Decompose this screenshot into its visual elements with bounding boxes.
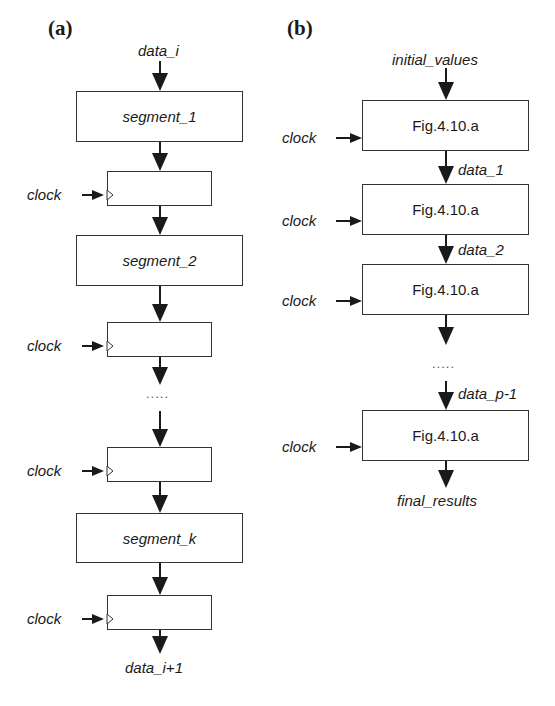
segment-1-block: segment_1 bbox=[76, 91, 243, 142]
clock-label: clock bbox=[27, 462, 61, 479]
segment-k-block: segment_k bbox=[76, 513, 243, 563]
clock-label: clock bbox=[282, 438, 316, 455]
register-1 bbox=[107, 171, 212, 206]
ellipsis: ..... bbox=[146, 386, 169, 401]
fig-block-3: Fig.4.10.a bbox=[362, 264, 529, 315]
output-label-final-results: final_results bbox=[397, 492, 477, 509]
register-3 bbox=[107, 447, 212, 482]
panel-b-label: (b) bbox=[287, 16, 313, 41]
segment-2-block: segment_2 bbox=[76, 235, 243, 286]
input-label-initial-values: initial_values bbox=[392, 51, 478, 68]
data-label-1: data_1 bbox=[458, 161, 504, 178]
clock-label: clock bbox=[27, 337, 61, 354]
register-4 bbox=[107, 595, 212, 630]
output-label-data-i-plus-1: data_i+1 bbox=[125, 659, 183, 676]
ellipsis: ..... bbox=[432, 356, 455, 371]
clock-label: clock bbox=[27, 610, 61, 627]
clock-label: clock bbox=[282, 292, 316, 309]
fig-block-4: Fig.4.10.a bbox=[362, 410, 529, 461]
clock-label: clock bbox=[282, 212, 316, 229]
clock-label: clock bbox=[282, 129, 316, 146]
panel-a-label: (a) bbox=[48, 16, 73, 41]
clock-label: clock bbox=[27, 186, 61, 203]
input-label-data-i: data_i bbox=[138, 42, 179, 59]
data-label-2: data_2 bbox=[458, 241, 504, 258]
data-label-p-minus-1: data_p-1 bbox=[458, 385, 517, 402]
fig-block-1: Fig.4.10.a bbox=[362, 100, 529, 151]
fig-block-2: Fig.4.10.a bbox=[362, 184, 529, 235]
register-2 bbox=[107, 322, 212, 357]
